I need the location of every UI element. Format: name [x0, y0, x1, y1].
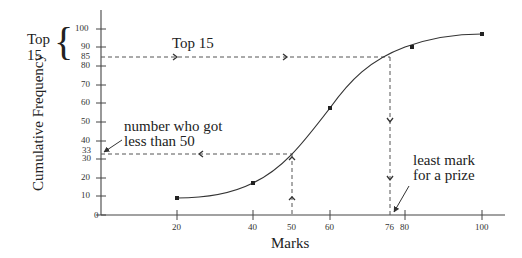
y-tick-60: 60	[81, 98, 90, 107]
prize-label-line1: least mark	[413, 153, 475, 168]
x-tick-80: 80	[400, 223, 409, 232]
y-tick-100: 100	[75, 24, 89, 33]
less50-label-line2: less than 50	[124, 134, 195, 149]
less50-label-line1: number who got	[124, 119, 222, 134]
brace-label-top: Top	[27, 32, 50, 47]
y-tick-0: 0	[94, 211, 99, 220]
top15-label: Top 15	[172, 36, 214, 51]
x-tick-20: 20	[172, 223, 181, 232]
y-tick-90: 90	[81, 42, 90, 51]
y-tick-50: 50	[81, 117, 90, 126]
y-tick-80: 80	[81, 61, 90, 70]
axes	[101, 10, 505, 215]
less50-pointer-arrow	[104, 140, 122, 152]
y-tick-20: 20	[81, 173, 90, 182]
y-tick-70: 70	[81, 80, 90, 89]
y-axis-title: Cumulative Frequency	[31, 53, 46, 193]
prize-pointer-arrow	[394, 186, 409, 212]
x-tick-60: 60	[325, 223, 334, 232]
x-axis-title: Marks	[271, 236, 309, 251]
brace-icon: {	[54, 22, 73, 62]
x-tick-100: 100	[475, 223, 489, 232]
y-tick-40: 40	[81, 136, 90, 145]
prize-label-line2: for a prize	[413, 168, 475, 183]
brace-label-bottom: 15	[27, 48, 42, 63]
y-tick-10: 10	[81, 191, 90, 200]
x-tick-50: 50	[287, 223, 296, 232]
chart-canvas	[0, 0, 522, 258]
x-tick-40: 40	[248, 223, 257, 232]
x-tick-76: 76	[385, 223, 394, 232]
y-tick-30: 30	[82, 154, 91, 163]
